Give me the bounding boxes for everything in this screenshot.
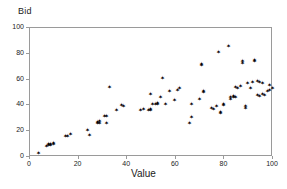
x-tick-0: 0	[17, 160, 41, 167]
x-tick-mark-40	[126, 156, 127, 159]
x-tick-80: 80	[211, 160, 235, 167]
y-tick-mark-80	[26, 53, 29, 54]
x-tick-mark-60	[175, 156, 176, 159]
x-tick-60: 60	[163, 160, 187, 167]
y-tick-mark-40	[26, 104, 29, 105]
y-tick-80: 80	[2, 49, 24, 56]
x-tick-mark-100	[272, 156, 273, 159]
x-tick-40: 40	[114, 160, 138, 167]
x-tick-20: 20	[66, 160, 90, 167]
y-tick-100: 100	[2, 23, 24, 30]
y-tick-mark-60	[26, 79, 29, 80]
x-tick-mark-0	[29, 156, 30, 159]
plot-area	[29, 27, 272, 156]
x-tick-mark-80	[223, 156, 224, 159]
scatter-chart: Bid 020406080100 020406080100 Value	[0, 0, 287, 189]
y-tick-mark-20	[26, 130, 29, 131]
y-tick-0: 0	[2, 152, 24, 159]
y-axis-title: Bid	[18, 6, 32, 16]
x-tick-mark-20	[78, 156, 79, 159]
x-tick-100: 100	[260, 160, 284, 167]
x-axis-title: Value	[0, 168, 287, 179]
y-tick-mark-100	[26, 27, 29, 28]
y-tick-40: 40	[2, 100, 24, 107]
y-tick-60: 60	[2, 75, 24, 82]
y-tick-20: 20	[2, 126, 24, 133]
